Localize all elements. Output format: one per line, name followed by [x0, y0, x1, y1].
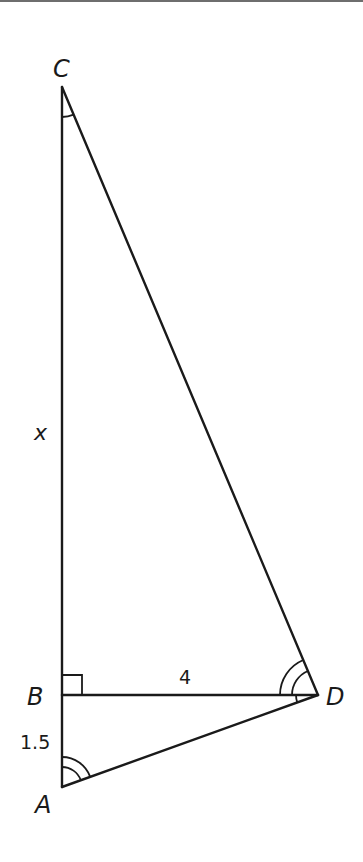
segment-cd	[62, 87, 318, 695]
side-label-cb: x	[33, 420, 48, 445]
vertex-label-d: D	[326, 683, 344, 711]
side-label-bd: 4	[179, 666, 191, 688]
vertex-label-b: B	[27, 683, 43, 711]
vertex-label-c: C	[53, 55, 70, 83]
right-angle-mark-b	[62, 675, 82, 695]
angle-arc-c	[62, 115, 74, 117]
vertex-label-a: A	[33, 791, 51, 819]
side-label-ba: 1.5	[20, 731, 50, 753]
angle-arc-a-inner	[62, 767, 81, 780]
angle-arc-d-inner	[292, 671, 308, 695]
segment-da	[62, 695, 318, 787]
triangle-diagram: C B D A x 1.5 4	[0, 0, 363, 862]
